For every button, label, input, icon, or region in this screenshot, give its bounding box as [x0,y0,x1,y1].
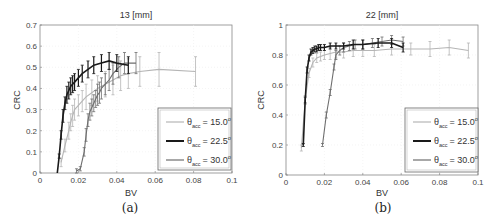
x-tick-label: 0.1 [472,178,484,187]
y-tick-label: 1 [279,21,284,30]
y-tick-label: 0.5 [26,63,38,72]
x-axis-label-b: BV [376,188,388,198]
chart-panel-b: 22 [mm] 00.020.040.060.080.100.20.40.60.… [250,0,497,223]
chart-title-a: 13 [mm] [120,10,153,20]
chart-panel-a: 13 [mm] 00.020.040.060.080.100.10.20.30.… [0,0,250,223]
y-tick-label: 0.2 [272,141,284,150]
chart-title-b: 22 [mm] [366,10,399,20]
y-tick-label: 0.8 [272,51,284,60]
x-tick-label: 0.1 [226,176,238,185]
caption-b: (b) [363,201,403,215]
x-tick-label: 0.06 [393,178,409,187]
y-axis-label-a: CRC [12,90,22,110]
y-tick-label: 0.4 [272,111,284,120]
y-tick-label: 0.7 [26,21,38,30]
x-tick-label: 0 [284,178,289,187]
y-tick-label: 0.1 [26,148,38,157]
x-tick-label: 0.02 [71,176,87,185]
x-tick-label: 0.08 [432,178,448,187]
x-tick-label: 0.08 [186,176,202,185]
y-tick-label: 0.6 [26,42,38,51]
x-axis-label-a: BV [125,188,137,198]
y-tick-label: 0 [279,171,284,180]
y-tick-label: 0 [33,169,38,178]
y-tick-label: 0.3 [26,106,38,115]
x-tick-label: 0 [38,176,43,185]
x-tick-label: 0.04 [355,178,371,187]
x-tick-label: 0.04 [109,176,125,185]
y-tick-label: 0.6 [272,81,284,90]
y-axis-label-b: CRC [256,90,266,110]
legend-a: θacc= 15.0oθacc= 22.5oθacc= 30.0o [158,108,231,170]
x-tick-label: 0.06 [147,176,163,185]
y-tick-label: 0.2 [26,127,38,136]
caption-a: (a) [110,201,150,215]
x-tick-label: 0.02 [317,178,333,187]
legend-b: θacc= 15.0oθacc= 22.5oθacc= 30.0o [405,108,478,172]
y-tick-label: 0.4 [26,84,38,93]
